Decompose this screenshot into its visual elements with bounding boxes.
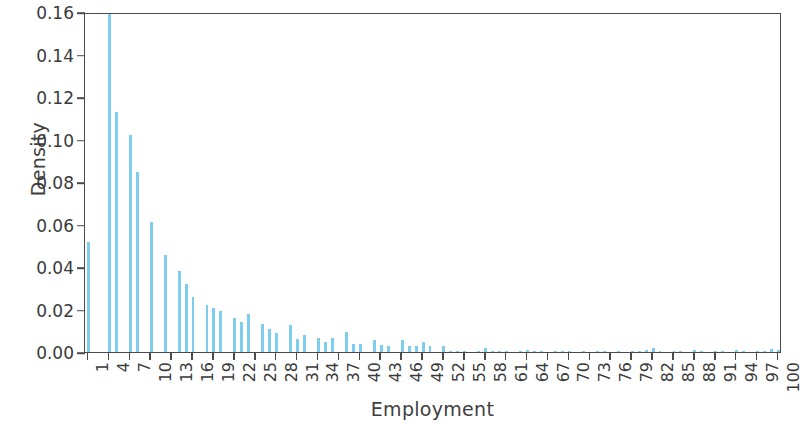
bar [449, 351, 452, 352]
x-axis-tick-label: 55 [470, 362, 489, 382]
x-axis-tick-mark [359, 353, 361, 360]
bar [561, 351, 564, 352]
x-axis-tick-mark [484, 353, 486, 360]
x-axis-tick-mark [400, 353, 402, 360]
bar [296, 339, 299, 352]
bar [735, 350, 738, 352]
x-axis-tick-label: 10 [156, 362, 175, 382]
x-axis-tick-label: 22 [240, 362, 259, 382]
bar [742, 351, 745, 352]
x-axis-tick-mark [735, 353, 737, 360]
x-axis-tick-label: 64 [533, 362, 552, 382]
x-axis-tick-label: 19 [219, 362, 238, 382]
bar [721, 351, 724, 352]
x-axis-tick-label: 88 [700, 362, 719, 382]
bar [192, 297, 195, 352]
bar [519, 351, 522, 352]
bar [540, 351, 543, 352]
bar [331, 338, 334, 352]
x-axis-tick-mark [338, 353, 340, 360]
x-axis-tick-mark [317, 353, 319, 360]
x-axis-tick-label: 25 [261, 362, 280, 382]
x-axis-tick-mark [609, 353, 611, 360]
bar [617, 351, 620, 352]
x-axis-tick-mark [547, 353, 549, 360]
x-axis-tick-label: 97 [763, 362, 782, 382]
bar [645, 350, 648, 352]
bar [582, 351, 585, 352]
x-axis-tick-mark [191, 353, 193, 360]
x-axis-tick-mark [233, 353, 235, 360]
bar [206, 305, 209, 352]
x-axis-tick-mark [568, 353, 570, 360]
x-axis-tick-mark [254, 353, 256, 360]
y-axis-tick-label: 0.10 [4, 131, 84, 151]
x-axis-tick-label: 82 [658, 362, 677, 382]
bar [659, 351, 662, 352]
bar [352, 344, 355, 353]
x-axis-tick-label: 85 [679, 362, 698, 382]
x-axis-tick-label: 94 [742, 362, 761, 382]
x-axis-tick-label: 70 [574, 362, 593, 382]
x-axis-tick-label: 79 [637, 362, 656, 382]
x-axis-tick-mark [505, 353, 507, 360]
bar [631, 351, 634, 352]
x-axis-tick-mark [463, 353, 465, 360]
bar [87, 242, 90, 353]
bar [477, 351, 480, 352]
bar [115, 112, 118, 352]
bar [303, 335, 306, 352]
bar [178, 271, 181, 352]
bar [233, 318, 236, 352]
bar [603, 351, 606, 352]
bar [777, 350, 780, 352]
bar [359, 344, 362, 352]
x-axis-tick-mark [651, 353, 653, 360]
bar [373, 340, 376, 352]
bar [596, 351, 599, 352]
x-axis-tick-label: 40 [365, 362, 384, 382]
x-axis-tick-mark [421, 353, 423, 360]
plot-area [84, 13, 781, 353]
y-axis-tick-label: 0.04 [4, 258, 84, 278]
bar [275, 333, 278, 352]
bar [463, 351, 466, 352]
x-axis-tick-label: 28 [282, 362, 301, 382]
x-axis-tick-mark [714, 353, 716, 360]
bar [268, 329, 271, 352]
x-axis-tick-label: 34 [323, 362, 342, 382]
bar [526, 350, 529, 352]
x-axis-tick-mark [379, 353, 381, 360]
x-axis-tick-mark [672, 353, 674, 360]
bar [185, 284, 188, 352]
x-axis-tick-mark [589, 353, 591, 360]
y-axis-tick-label: 0.00 [4, 343, 84, 363]
x-axis-tick-label: 4 [114, 362, 133, 372]
y-axis-tick-label: 0.12 [4, 88, 84, 108]
bar [673, 351, 676, 352]
bar [533, 351, 536, 352]
bar [415, 346, 418, 352]
bar [714, 351, 717, 352]
bar [289, 325, 292, 352]
x-axis-tick-label: 91 [721, 362, 740, 382]
x-axis-tick-label: 76 [616, 362, 635, 382]
bar [129, 135, 132, 352]
bar [380, 345, 383, 352]
bar [219, 311, 222, 352]
bar [261, 324, 264, 352]
x-axis-tick-label: 52 [449, 362, 468, 382]
bar [456, 351, 459, 352]
y-axis-tick-label: 0.16 [4, 3, 84, 23]
bar [317, 338, 320, 352]
x-axis-tick-label: 1 [93, 362, 112, 372]
bar [505, 351, 508, 352]
bar [498, 351, 501, 352]
y-axis-tick-label: 0.08 [4, 173, 84, 193]
x-axis-tick-label: 31 [303, 362, 322, 382]
bar [247, 314, 250, 352]
bar [679, 351, 682, 352]
x-axis-tick-label: 100 [784, 362, 803, 393]
bar [700, 351, 703, 352]
